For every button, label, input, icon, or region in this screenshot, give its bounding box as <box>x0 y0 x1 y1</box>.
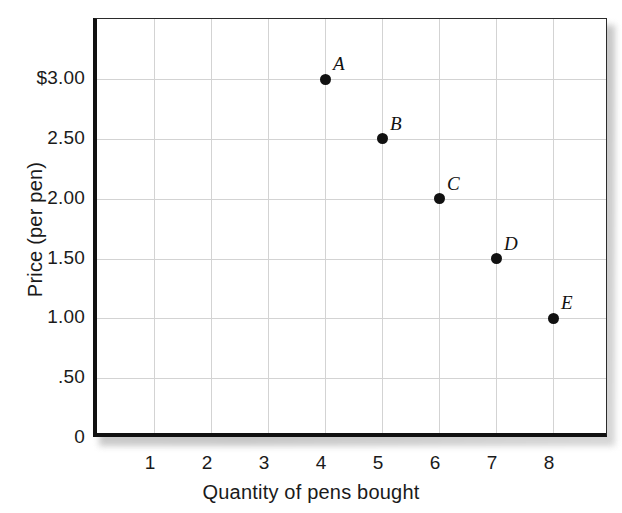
gridline-horizontal <box>97 259 606 260</box>
data-point <box>548 313 559 324</box>
y-axis-tick-label: .50 <box>58 366 85 388</box>
x-axis-tick-label: 2 <box>202 452 213 474</box>
y-axis-tick-label: 1.50 <box>47 247 85 269</box>
x-axis-title: Quantity of pens bought <box>0 481 622 504</box>
gridline-vertical <box>496 19 497 433</box>
gridline-horizontal <box>97 139 606 140</box>
data-point-label: B <box>390 113 402 135</box>
data-point <box>434 193 445 204</box>
x-axis-tick-label: 1 <box>145 452 156 474</box>
gridline-horizontal <box>97 318 606 319</box>
data-point <box>377 133 388 144</box>
gridline-vertical <box>154 19 155 433</box>
x-axis-tick-label: 5 <box>373 452 384 474</box>
gridline-vertical <box>439 19 440 433</box>
data-point-label: C <box>447 173 460 195</box>
gridline-vertical <box>553 19 554 433</box>
gridline-horizontal <box>97 79 606 80</box>
y-axis-tick-label: $3.00 <box>36 67 85 89</box>
x-axis-tick-label: 3 <box>259 452 270 474</box>
chart-screenshot: ABCDE 0.501.001.502.002.50$3.00 12345678… <box>0 0 622 513</box>
x-axis-tick-label: 6 <box>430 452 441 474</box>
data-point-label: E <box>561 292 573 314</box>
gridline-vertical <box>382 19 383 433</box>
gridlines <box>97 19 606 433</box>
y-axis-tick-label: 2.00 <box>47 187 85 209</box>
data-point <box>491 253 502 264</box>
gridline-vertical <box>211 19 212 433</box>
gridline-vertical <box>268 19 269 433</box>
data-point-label: A <box>333 53 345 75</box>
y-axis-tick-label: 0 <box>74 426 85 448</box>
x-axis-tick-label: 8 <box>544 452 555 474</box>
data-point <box>320 74 331 85</box>
x-axis-tick-label: 4 <box>316 452 327 474</box>
x-axis-tick-label: 7 <box>487 452 498 474</box>
data-point-label: D <box>504 233 518 255</box>
gridline-horizontal <box>97 199 606 200</box>
y-axis-tick-label: 2.50 <box>47 127 85 149</box>
gridline-horizontal <box>97 378 606 379</box>
y-axis-title: Price (per pen) <box>24 100 47 360</box>
y-axis-tick-label: 1.00 <box>47 306 85 328</box>
plot-area: ABCDE <box>93 18 607 437</box>
